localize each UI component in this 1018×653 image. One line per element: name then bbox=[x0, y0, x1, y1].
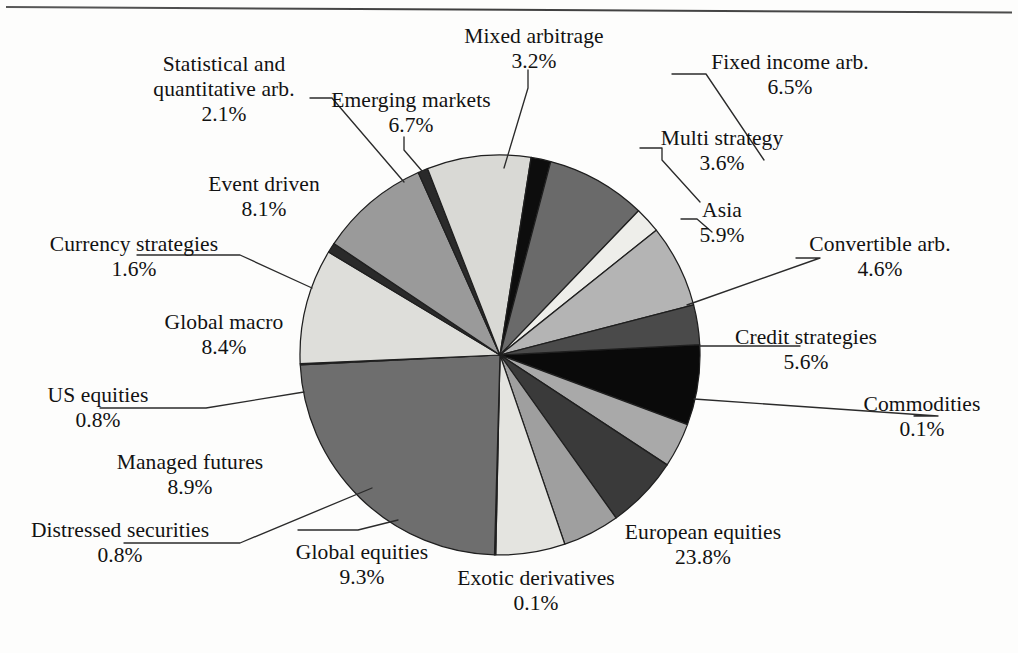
label-managed-futures: Managed futures 8.9% bbox=[117, 450, 264, 500]
label-convertible-arb-name: Convertible arb. bbox=[809, 232, 950, 256]
leader-line-mixed-arbitrage bbox=[504, 70, 528, 168]
label-emerging-markets-name: Emerging markets bbox=[331, 88, 490, 112]
label-us-equities: US equities 0.8% bbox=[48, 383, 149, 433]
label-currency-strategies: Currency strategies 1.6% bbox=[50, 232, 218, 282]
label-managed-futures-name: Managed futures bbox=[117, 450, 264, 474]
label-european-equities: European equities 23.8% bbox=[625, 520, 781, 570]
leader-line-global-equities bbox=[298, 520, 398, 530]
label-event-driven-name: Event driven bbox=[208, 172, 320, 196]
label-multi-strategy: Multi strategy 3.6% bbox=[661, 126, 784, 176]
label-credit-strategies: Credit strategies 5.6% bbox=[735, 325, 877, 375]
label-fixed-income-arb-name: Fixed income arb. bbox=[711, 50, 869, 74]
label-exotic-derivatives-name: Exotic derivatives bbox=[457, 566, 615, 590]
label-distressed-securities-name: Distressed securities bbox=[31, 518, 209, 542]
label-statistical-arb: Statistical and quantitative arb. 2.1% bbox=[153, 52, 294, 127]
figure-page: Mixed arbitrage 3.2% Fixed income arb. 6… bbox=[0, 0, 1018, 653]
label-us-equities-name: US equities bbox=[48, 383, 149, 407]
label-statistical-arb-name-line1: Statistical and bbox=[163, 52, 286, 76]
label-statistical-arb-pct: 2.1% bbox=[153, 102, 294, 127]
label-credit-strategies-pct: 5.6% bbox=[735, 350, 877, 375]
label-fixed-income-arb: Fixed income arb. 6.5% bbox=[711, 50, 869, 100]
label-global-equities-pct: 9.3% bbox=[296, 565, 428, 590]
label-emerging-markets: Emerging markets 6.7% bbox=[331, 88, 490, 138]
label-commodities-name: Commodities bbox=[864, 392, 981, 416]
pie-slice-european-equities[interactable] bbox=[300, 355, 500, 555]
label-exotic-derivatives-pct: 0.1% bbox=[457, 591, 615, 616]
label-distressed-securities-pct: 0.8% bbox=[31, 543, 209, 568]
label-exotic-derivatives: Exotic derivatives 0.1% bbox=[457, 566, 615, 616]
label-emerging-markets-pct: 6.7% bbox=[331, 113, 490, 138]
label-european-equities-name: European equities bbox=[625, 520, 781, 544]
label-commodities: Commodities 0.1% bbox=[864, 392, 981, 442]
label-asia-pct: 5.9% bbox=[699, 223, 744, 248]
label-distressed-securities: Distressed securities 0.8% bbox=[31, 518, 209, 568]
label-statistical-arb-name-line2: quantitative arb. bbox=[153, 77, 294, 101]
leader-line-convertible-arb bbox=[687, 258, 820, 305]
label-asia: Asia 5.9% bbox=[699, 198, 744, 248]
label-convertible-arb-pct: 4.6% bbox=[809, 257, 950, 282]
label-asia-name: Asia bbox=[702, 198, 742, 222]
label-commodities-pct: 0.1% bbox=[864, 417, 981, 442]
label-global-macro-pct: 8.4% bbox=[165, 335, 284, 360]
label-credit-strategies-name: Credit strategies bbox=[735, 325, 877, 349]
label-currency-strategies-name: Currency strategies bbox=[50, 232, 218, 256]
label-managed-futures-pct: 8.9% bbox=[117, 475, 264, 500]
label-event-driven-pct: 8.1% bbox=[208, 197, 320, 222]
label-convertible-arb: Convertible arb. 4.6% bbox=[809, 232, 950, 282]
label-multi-strategy-name: Multi strategy bbox=[661, 126, 784, 150]
label-european-equities-pct: 23.8% bbox=[625, 545, 781, 570]
label-mixed-arbitrage: Mixed arbitrage 3.2% bbox=[464, 24, 603, 74]
label-us-equities-pct: 0.8% bbox=[48, 408, 149, 433]
label-global-macro-name: Global macro bbox=[165, 310, 284, 334]
label-global-equities-name: Global equities bbox=[296, 540, 428, 564]
label-fixed-income-arb-pct: 6.5% bbox=[711, 75, 869, 100]
label-mixed-arbitrage-name: Mixed arbitrage bbox=[464, 24, 603, 48]
label-currency-strategies-pct: 1.6% bbox=[50, 257, 218, 282]
label-event-driven: Event driven 8.1% bbox=[208, 172, 320, 222]
label-global-equities: Global equities 9.3% bbox=[296, 540, 428, 590]
label-global-macro: Global macro 8.4% bbox=[165, 310, 284, 360]
pie-slice-group bbox=[300, 155, 700, 555]
label-multi-strategy-pct: 3.6% bbox=[661, 151, 784, 176]
label-mixed-arbitrage-pct: 3.2% bbox=[464, 49, 603, 74]
